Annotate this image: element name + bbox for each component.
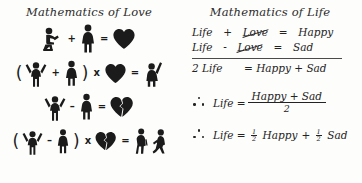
operator-equals: = [129,68,141,78]
row-multiply-broken-heart: ( – [0,125,178,157]
therefore-icon [192,128,207,142]
equation-sum: 2 Life = Happy + Sad [192,61,362,76]
eq1-term-life: Life [192,26,212,38]
operator-minus: – [45,136,54,146]
walking-away-woman-icon [134,127,148,155]
right-column: Mathematics of Life Life + Love = Happy … [178,0,362,183]
cheering-man-icon [22,127,43,156]
broken-heart-icon [110,96,134,118]
eq1-result-happy: Happy [298,26,333,38]
walking-away-man-icon [150,127,167,155]
row-subtraction: – = [0,91,178,123]
paren-open: ( [15,65,24,82]
half-fraction-first: 1 2 [251,129,257,142]
standing-woman-icon [79,93,94,121]
eq2-result-sad: Sad [293,41,313,53]
row-multiply-heart: ( + [0,57,178,89]
concl2-plus: + [301,129,310,141]
half-fraction-second: 1 2 [316,129,322,142]
sum-lhs: 2 Life [192,61,244,76]
half-denominator: 2 [252,136,256,142]
operator-equals: = [119,136,131,146]
eq1-cancelled-love: Love [243,25,268,40]
fraction-numerator: Happy + Sad [248,90,326,102]
operator-equals: = [98,34,110,44]
eq2-operator: - [223,41,227,53]
eq1-operator: + [223,26,232,38]
operator-multiply: x [91,68,101,78]
eq2-equals: = [274,41,283,53]
kneeling-proposing-man-icon [42,26,64,52]
heart-icon [104,63,127,84]
eq1-equals: = [279,26,288,38]
equation-life-plus-love: Life + Love = Happy [192,25,362,40]
celebrating-woman-icon [143,58,163,88]
concl1-lhs: Life = [213,97,246,109]
cheering-man-icon [44,92,66,122]
sum-rhs: = Happy + Sad [244,61,327,76]
operator-multiply: x [83,136,93,146]
left-title: Mathematics of Love [0,0,178,19]
broken-heart-icon [95,131,117,151]
paren-close: ) [81,65,90,82]
standing-woman-icon [56,128,70,155]
equation-life-minus-love: Life - Love = Sad [192,40,362,55]
operator-plus: + [49,68,61,78]
operator-minus: – [68,102,77,112]
conclusion-fraction: Life = Happy + Sad 2 [178,90,362,115]
half-denominator: 2 [317,136,321,142]
right-title: Mathematics of Life [178,0,362,19]
therefore-icon [192,96,207,110]
operator-equals: = [96,102,108,112]
fraction-happy-plus-sad-over-two: Happy + Sad 2 [248,90,326,115]
conclusion-expanded: Life = 1 2 Happy + 1 2 Sad [178,128,362,142]
row-proposal: + = [0,23,178,55]
mathematics-of-love-and-life-diagram: Mathematics of Love + [0,0,362,183]
left-column: Mathematics of Love + [0,0,178,183]
paren-open: ( [11,133,20,150]
paren-close: ) [72,133,81,150]
eq2-cancelled-love: Love [237,40,262,55]
summation-rule [192,58,342,59]
standing-woman-icon [80,24,96,54]
heart-icon [112,28,136,50]
concl2-term-happy: Happy [263,129,298,141]
eq2-term-life: Life [192,41,212,53]
standing-woman-icon [64,60,79,87]
operator-plus: + [66,34,78,44]
fraction-denominator: 2 [284,103,290,115]
concl2-term-sad: Sad [327,129,347,141]
concl2-lhs: Life = [213,129,246,141]
cheering-man-icon [25,58,47,88]
equation-block: Life + Love = Happy Life - Love = Sad [178,19,362,76]
